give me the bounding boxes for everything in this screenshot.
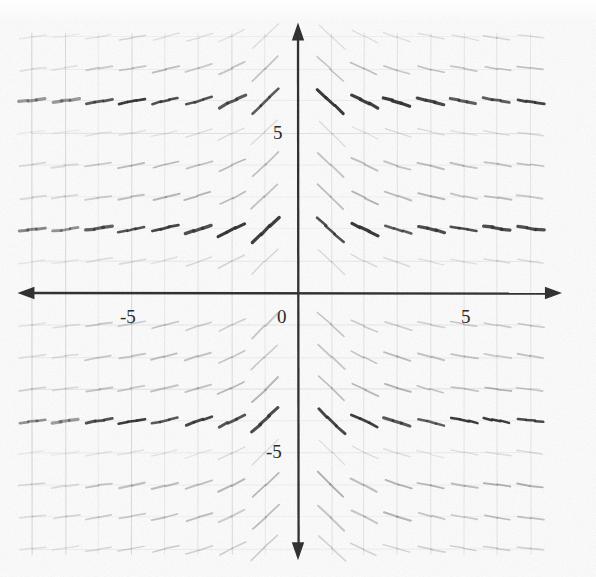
- slope-field-figure: -5 5 5 -5 0: [0, 0, 596, 577]
- y-axis-tick-label-pos5: 5: [273, 123, 283, 142]
- y-axis-tick-label-neg5: -5: [266, 442, 282, 461]
- slope-field-canvas: [0, 0, 596, 577]
- origin-label: 0: [277, 307, 287, 326]
- scan-top-edge: [0, 0, 596, 22]
- axes: [17, 23, 561, 561]
- x-axis-tick-label-neg5: -5: [120, 307, 136, 326]
- x-axis-tick-label-pos5: 5: [461, 307, 471, 326]
